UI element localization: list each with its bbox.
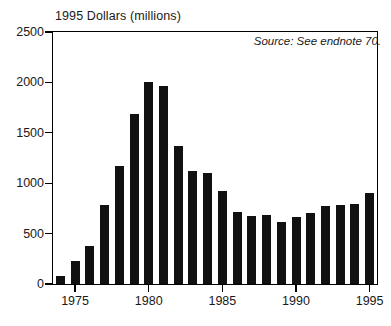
y-tick-label: 2500 (16, 25, 44, 39)
x-tick-mark (148, 285, 149, 292)
bar (277, 222, 286, 284)
bar (262, 215, 271, 284)
bar (350, 204, 359, 284)
bar (174, 146, 183, 284)
x-tick-mark (74, 285, 75, 292)
bar (203, 173, 212, 284)
bar-series (53, 32, 377, 284)
bar (218, 191, 227, 284)
bar (100, 205, 109, 284)
bar (144, 82, 153, 284)
x-tick-label: 1995 (356, 294, 384, 308)
bar (306, 213, 315, 284)
y-tick-label: 1000 (16, 176, 44, 190)
x-tick-label: 1990 (282, 294, 310, 308)
x-tick-label: 1975 (61, 294, 89, 308)
chart-figure: 1995 Dollars (millions) 2500200015001000… (0, 0, 391, 326)
x-tick-mark (295, 285, 296, 292)
bar (365, 193, 374, 284)
y-tick-mark (45, 283, 52, 284)
y-tick-mark (45, 132, 52, 133)
bar (336, 205, 345, 284)
x-tick-label: 1985 (208, 294, 236, 308)
x-tick-mark (369, 285, 370, 292)
bar (159, 86, 168, 284)
x-tick-label: 1980 (135, 294, 163, 308)
bar (130, 114, 139, 284)
y-tick-label: 500 (23, 227, 44, 241)
bar (71, 261, 80, 284)
y-tick-label: 1500 (16, 126, 44, 140)
bar (233, 212, 242, 284)
y-tick-mark (45, 233, 52, 234)
y-tick-label: 2000 (16, 75, 44, 89)
bar (115, 166, 124, 284)
bar (188, 171, 197, 284)
bar (56, 276, 65, 284)
x-tick-mark (222, 285, 223, 292)
page-title: 1995 Dollars (millions) (55, 9, 181, 23)
y-tick-label: 0 (37, 277, 44, 291)
y-tick-mark (45, 82, 52, 83)
bar (292, 217, 301, 284)
bar (321, 206, 330, 284)
bar (247, 216, 256, 284)
bar (85, 246, 94, 284)
y-tick-mark (45, 183, 52, 184)
y-tick-mark (45, 31, 52, 32)
y-axis: 25002000150010005000 (0, 0, 44, 326)
